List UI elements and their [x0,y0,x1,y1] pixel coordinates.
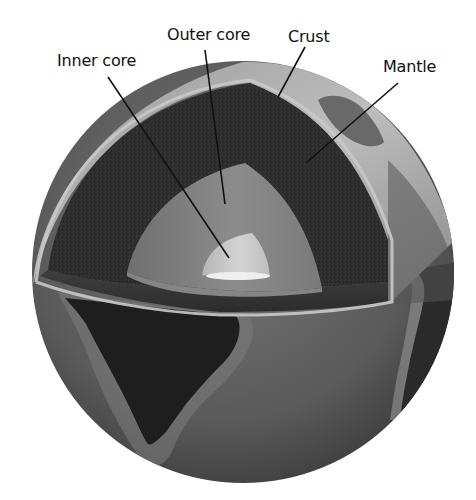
earth-layers-diagram: Inner core Outer core Crust Mantle [0,0,476,500]
label-inner-core: Inner core [57,53,136,69]
inner-core-floor-glow [206,272,270,280]
label-outer-core: Outer core [167,27,250,43]
label-mantle: Mantle [383,59,436,75]
label-crust: Crust [288,29,330,45]
